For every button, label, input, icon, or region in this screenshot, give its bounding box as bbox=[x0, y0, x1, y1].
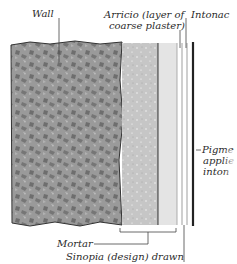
fade-edge bbox=[223, 150, 237, 190]
label-intonaco: Intonac bbox=[191, 9, 229, 20]
label-arricio-cont: coarse plaster) bbox=[109, 20, 185, 31]
fresco-layers-illustration bbox=[0, 0, 237, 264]
label-wall: Wall bbox=[32, 8, 54, 19]
intonaco-layer bbox=[159, 43, 177, 225]
label-mortar: Mortar bbox=[57, 238, 93, 249]
label-sinopia: Sinopia (design) drawn bbox=[66, 251, 184, 262]
arricio-layer bbox=[122, 43, 158, 225]
wall-layer bbox=[11, 41, 123, 226]
label-arricio: Arricio (layer of bbox=[104, 9, 184, 20]
